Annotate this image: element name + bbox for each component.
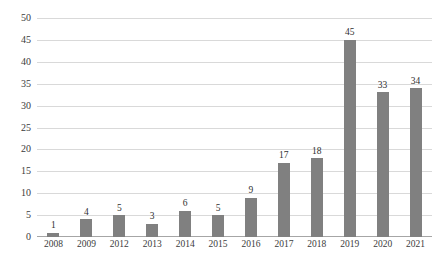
bar (212, 215, 224, 237)
bar-value-label: 45 (345, 28, 355, 38)
x-axis-tick-label: 2014 (176, 240, 195, 250)
bar-group: 9 (235, 18, 268, 237)
y-axis-tick-label: 50 (21, 13, 31, 23)
bar-group: 45 (333, 18, 366, 237)
bar-group: 4 (70, 18, 103, 237)
bar-value-label: 9 (249, 186, 254, 196)
y-axis-tick-label: 0 (26, 232, 31, 242)
bar (278, 163, 290, 237)
bar-value-label: 34 (411, 77, 421, 87)
bar (377, 92, 389, 237)
bar (80, 219, 92, 237)
y-axis-tick-label: 15 (21, 166, 31, 176)
x-axis-tick-label: 2015 (209, 240, 228, 250)
x-axis-tick-label: 2021 (406, 240, 425, 250)
y-axis-tick-label: 45 (21, 35, 31, 45)
bar (179, 211, 191, 237)
bar-chart: 05101520253035404550 14536591718453334 2… (0, 0, 446, 261)
y-axis-tick-label: 35 (21, 79, 31, 89)
x-axis-tick-label: 2018 (307, 240, 326, 250)
bar-group: 18 (300, 18, 333, 237)
bar-value-label: 1 (51, 221, 56, 231)
x-axis-tick-label: 2016 (241, 240, 260, 250)
bar-value-label: 5 (117, 204, 122, 214)
x-axis-tick-label: 2017 (274, 240, 293, 250)
y-axis-tick-label: 5 (26, 210, 31, 220)
bar (245, 198, 257, 237)
bar-value-label: 17 (279, 151, 289, 161)
x-axis-tick-label: 2008 (44, 240, 63, 250)
bar-value-label: 4 (84, 208, 89, 218)
y-axis-tick-label: 30 (21, 101, 31, 111)
plot-area: 05101520253035404550 14536591718453334 (37, 18, 432, 237)
x-axis-tick-label: 2019 (340, 240, 359, 250)
bar-group: 1 (37, 18, 70, 237)
bar-group: 3 (136, 18, 169, 237)
bar (113, 215, 125, 237)
x-axis-tick-label: 2009 (77, 240, 96, 250)
bar (146, 224, 158, 237)
bar-group: 17 (267, 18, 300, 237)
bar-group: 34 (399, 18, 432, 237)
y-axis-tick-label: 25 (21, 123, 31, 133)
bar-group: 6 (169, 18, 202, 237)
bar-value-label: 3 (150, 212, 155, 222)
y-axis-tick-label: 10 (21, 188, 31, 198)
bar-value-label: 6 (183, 199, 188, 209)
x-axis-tick-label: 2020 (373, 240, 392, 250)
bar-group: 33 (366, 18, 399, 237)
x-axis-tick-label: 2012 (110, 240, 129, 250)
bar (311, 158, 323, 237)
bar-group: 5 (202, 18, 235, 237)
x-axis-tick-label: 2013 (143, 240, 162, 250)
y-axis-tick-label: 40 (21, 57, 31, 67)
bar-value-label: 18 (312, 147, 322, 157)
bar (47, 233, 59, 237)
y-axis-tick-label: 20 (21, 144, 31, 154)
bar-group: 5 (103, 18, 136, 237)
bar (410, 88, 422, 237)
bar (344, 40, 356, 237)
bars-layer: 14536591718453334 (37, 18, 432, 237)
bar-value-label: 5 (216, 204, 221, 214)
bar-value-label: 33 (378, 81, 388, 91)
x-axis-tick-labels: 2008200920122013201420152016201720182019… (37, 240, 432, 258)
